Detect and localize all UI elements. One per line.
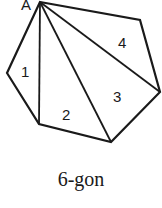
region-label-1: 1 xyxy=(21,63,29,80)
region-label-4: 4 xyxy=(118,34,126,51)
region-label-3: 3 xyxy=(113,88,121,105)
diagonal-1 xyxy=(39,2,40,124)
vertex-label-a: A xyxy=(21,0,31,13)
diagonal-2 xyxy=(40,2,111,142)
diagonal-3 xyxy=(40,2,160,92)
region-label-2: 2 xyxy=(62,106,70,123)
hexagon-outline xyxy=(7,2,160,142)
figure-caption: 6-gon xyxy=(0,168,162,191)
